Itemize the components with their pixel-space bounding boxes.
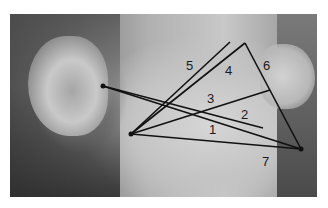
line-5 <box>131 42 230 134</box>
label-5: 5 <box>186 59 193 72</box>
label-2: 2 <box>241 108 248 121</box>
gonion-point <box>129 132 134 137</box>
label-7: 7 <box>262 155 269 168</box>
label-6: 6 <box>263 59 270 72</box>
line-3 <box>131 90 270 134</box>
tragus-point <box>101 84 106 89</box>
label-3: 3 <box>207 92 214 105</box>
measurement-lines <box>0 0 328 208</box>
label-1: 1 <box>209 123 216 136</box>
label-4: 4 <box>225 64 232 77</box>
line-4 <box>131 43 245 134</box>
chin-point <box>299 147 304 152</box>
